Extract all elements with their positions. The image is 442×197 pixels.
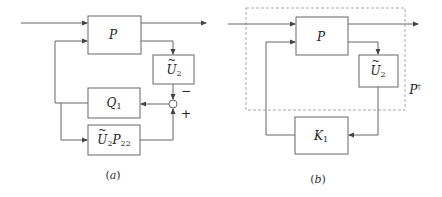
caption-b: (b) [310, 174, 326, 185]
label-p-a: P [109, 29, 117, 41]
figure-canvas: P U2 Q1 U2P22 − + (a) P U2 K1 P† (b) [0, 0, 442, 197]
diagram-lines [0, 0, 442, 197]
label-u2-b: U2 [370, 65, 385, 79]
label-k1-b: K1 [314, 130, 328, 144]
summing-junction [169, 100, 177, 108]
label-u2p22-a: U2P22 [97, 134, 130, 148]
caption-a: (a) [105, 170, 120, 181]
minus-sign: − [181, 85, 191, 97]
label-p-dagger: P† [409, 84, 421, 96]
label-u2-a: U2 [166, 64, 181, 78]
plus-sign: + [181, 108, 191, 120]
label-q1-a: Q1 [107, 97, 122, 111]
label-p-b: P [317, 31, 325, 43]
